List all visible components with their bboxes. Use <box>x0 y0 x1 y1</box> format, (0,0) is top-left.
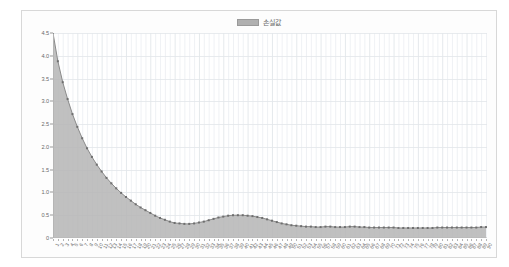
data-point <box>237 214 239 216</box>
data-point <box>242 214 244 216</box>
x-axis-tick-mark <box>228 239 229 241</box>
x-axis-tick-mark <box>82 239 83 241</box>
x-axis-tick-mark <box>223 239 224 241</box>
x-axis-tick-mark <box>262 239 263 241</box>
data-point <box>62 81 64 83</box>
data-point <box>383 227 385 229</box>
x-axis-tick-mark <box>170 239 171 241</box>
data-point <box>412 227 414 229</box>
x-axis-tick-mark <box>389 239 390 241</box>
data-point <box>266 218 268 220</box>
data-point <box>320 226 322 228</box>
data-point <box>373 227 375 229</box>
x-axis-tick-mark <box>282 239 283 241</box>
data-point <box>456 227 458 229</box>
y-axis: 00.51.01.52.02.53.03.54.04.5 <box>22 33 53 238</box>
data-point <box>144 209 146 211</box>
data-point <box>300 225 302 227</box>
data-point <box>310 226 312 228</box>
x-axis-tick-mark <box>277 239 278 241</box>
y-axis-tick-label: 3.5 <box>42 76 49 82</box>
data-point <box>178 222 180 224</box>
series-area-loss <box>53 33 486 238</box>
data-point <box>96 164 98 166</box>
x-axis-tick-mark <box>155 239 156 241</box>
data-point <box>334 226 336 228</box>
x-axis-tick-mark <box>418 239 419 241</box>
x-axis-tick-mark <box>403 239 404 241</box>
data-point <box>378 227 380 229</box>
data-point <box>422 227 424 229</box>
y-axis-tick-label: 4.5 <box>42 30 49 36</box>
data-point <box>256 216 258 218</box>
data-point <box>427 227 429 229</box>
data-point <box>110 182 112 184</box>
data-point <box>130 200 132 202</box>
x-axis-tick-mark <box>116 239 117 241</box>
data-point <box>276 221 278 223</box>
x-axis-tick-mark <box>330 239 331 241</box>
x-axis-tick-mark <box>121 239 122 241</box>
data-point <box>329 226 331 228</box>
data-point <box>247 215 249 217</box>
x-axis-tick-mark <box>413 239 414 241</box>
data-point <box>164 219 166 221</box>
y-axis-tick-label: 0.5 <box>42 212 49 218</box>
data-point <box>183 223 185 225</box>
x-axis-tick-mark <box>423 239 424 241</box>
x-axis-tick-mark <box>360 239 361 241</box>
x-axis-tick-mark <box>428 239 429 241</box>
data-point <box>149 212 151 214</box>
x-axis-tick-mark <box>209 239 210 241</box>
x-axis-tick-mark <box>58 239 59 241</box>
data-point <box>159 217 161 219</box>
data-point <box>363 226 365 228</box>
data-point <box>67 98 69 100</box>
x-axis-tick-mark <box>136 239 137 241</box>
x-axis-tick-mark <box>160 239 161 241</box>
x-axis-tick-mark <box>77 239 78 241</box>
x-axis-tick-mark <box>457 239 458 241</box>
data-point <box>169 221 171 223</box>
data-point <box>470 227 472 229</box>
x-axis-tick-mark <box>340 239 341 241</box>
data-point <box>339 226 341 228</box>
x-axis-tick-mark <box>301 239 302 241</box>
data-point <box>475 227 477 229</box>
data-point <box>71 113 73 115</box>
x-axis-tick-mark <box>321 239 322 241</box>
data-point <box>446 227 448 229</box>
data-point <box>286 223 288 225</box>
data-point <box>315 226 317 228</box>
data-point <box>227 215 229 217</box>
x-axis-tick-mark <box>53 239 54 241</box>
data-point <box>198 222 200 224</box>
chart-card: 손실값 00.51.01.52.02.53.03.54.04.5 1234567… <box>21 10 497 258</box>
data-point <box>217 217 219 219</box>
x-axis-tick-mark <box>267 239 268 241</box>
data-point <box>417 227 419 229</box>
y-axis-tick-label: 3.0 <box>42 98 49 104</box>
data-point <box>290 224 292 226</box>
data-point <box>101 170 103 172</box>
x-axis-tick-mark <box>175 239 176 241</box>
y-axis-tick-label: 2.0 <box>42 144 49 150</box>
data-point <box>359 226 361 228</box>
data-point <box>222 216 224 218</box>
x-axis-tick-mark <box>355 239 356 241</box>
data-point <box>397 227 399 229</box>
y-axis-tick-label: 1.0 <box>42 189 49 195</box>
x-axis-tick-mark <box>141 239 142 241</box>
data-point <box>154 215 156 217</box>
loss-area-chart <box>53 33 487 238</box>
x-axis-tick-mark <box>379 239 380 241</box>
data-point <box>441 227 443 229</box>
x-axis-tick-mark <box>131 239 132 241</box>
data-point <box>57 60 59 62</box>
x-axis-tick-mark <box>248 239 249 241</box>
x-axis-tick-mark <box>394 239 395 241</box>
x-axis-tick-mark <box>335 239 336 241</box>
data-point <box>388 227 390 229</box>
x-axis-tick-mark <box>384 239 385 241</box>
x-axis-tick-mark <box>150 239 151 241</box>
